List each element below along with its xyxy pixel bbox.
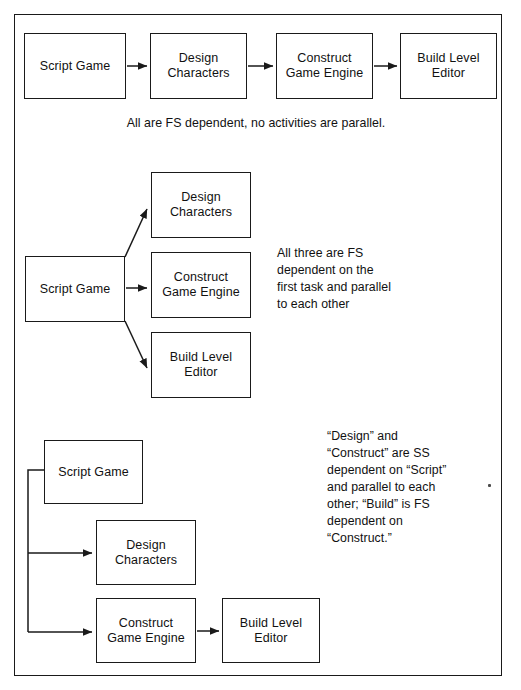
task-box-construct-game-engine[interactable]: Construct Game Engine xyxy=(96,598,196,663)
task-box-design-characters[interactable]: Design Characters xyxy=(96,520,196,585)
task-label: Design Characters xyxy=(170,190,232,220)
diagram-frame xyxy=(14,14,502,676)
task-box-build-level-editor[interactable]: Build Level Editor xyxy=(222,598,320,663)
task-box-construct-game-engine[interactable]: Construct Game Engine xyxy=(151,252,251,318)
task-label: Script Game xyxy=(58,465,129,480)
page-speck xyxy=(488,484,491,487)
task-box-build-level-editor[interactable]: Build Level Editor xyxy=(400,33,497,99)
task-box-design-characters[interactable]: Design Characters xyxy=(150,33,247,99)
task-label: Script Game xyxy=(40,59,111,74)
caption-section-2: All three are FS dependent on the first … xyxy=(277,245,457,313)
task-label: Construct Game Engine xyxy=(162,270,240,300)
task-label: Design Characters xyxy=(115,538,177,568)
task-label: Construct Game Engine xyxy=(107,616,185,646)
task-box-script-game[interactable]: Script Game xyxy=(44,440,143,504)
caption-section-3: “Design” and “Construct” are SS dependen… xyxy=(327,428,492,547)
task-box-design-characters[interactable]: Design Characters xyxy=(151,172,251,238)
task-label: Build Level Editor xyxy=(240,616,302,646)
task-label: Construct Game Engine xyxy=(286,51,364,81)
task-label: Design Characters xyxy=(167,51,229,81)
task-label: Script Game xyxy=(40,282,111,297)
task-label: Build Level Editor xyxy=(170,350,232,380)
task-box-construct-game-engine[interactable]: Construct Game Engine xyxy=(276,33,373,99)
task-box-build-level-editor[interactable]: Build Level Editor xyxy=(151,332,251,398)
task-box-script-game[interactable]: Script Game xyxy=(25,256,125,322)
caption-section-1: All are FS dependent, no activities are … xyxy=(46,115,466,132)
task-label: Build Level Editor xyxy=(417,51,479,81)
task-box-script-game[interactable]: Script Game xyxy=(24,33,126,99)
